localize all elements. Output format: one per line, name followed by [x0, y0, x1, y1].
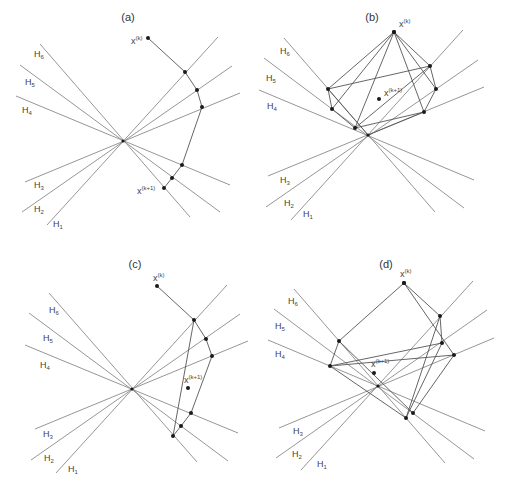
hyperplane-label-H6: H6	[49, 305, 60, 316]
projection-point	[195, 88, 199, 92]
projection-edge	[404, 283, 440, 316]
hyperplane-label-H4: H4	[40, 360, 51, 371]
projection-edge	[368, 112, 424, 135]
panel-d-title: (d)	[379, 258, 392, 270]
hyperplane-label-H4: H4	[267, 101, 278, 112]
projection-edge	[328, 89, 368, 135]
intersection-point	[366, 133, 369, 136]
projection-point	[438, 314, 442, 318]
projection-edge	[394, 32, 436, 89]
panel-b: (b)H1H2H3H4H5H6x(k)x(k+1)	[259, 11, 484, 220]
projection-edge	[330, 355, 454, 366]
hyperplane-label-H4: H4	[22, 105, 33, 116]
projection-point	[337, 339, 341, 343]
hyperplane-label-H5: H5	[266, 73, 277, 84]
hyperplane-label-H4: H4	[275, 349, 286, 360]
hyperplane-label-H1: H1	[68, 464, 79, 475]
projection-edge	[355, 32, 394, 128]
projection-edge	[191, 356, 212, 413]
xk1-label: x(k+1)	[184, 374, 202, 385]
projection-point	[186, 386, 190, 390]
hyperplane-label-H1: H1	[303, 209, 314, 220]
hyperplane-H1	[291, 30, 463, 220]
projection-point	[170, 176, 174, 180]
projection-edge	[206, 339, 212, 356]
hyperplane-H5	[20, 65, 220, 212]
hyperplane-label-H2: H2	[284, 198, 295, 209]
projection-point	[210, 354, 214, 358]
projection-point	[192, 318, 196, 322]
projection-point	[189, 411, 193, 415]
projection-point	[179, 424, 183, 428]
projection-point	[326, 87, 330, 91]
xk1-label: x(k+1)	[137, 185, 155, 196]
xk-label: x(k)	[153, 272, 165, 283]
hyperplane-label-H2: H2	[34, 204, 45, 215]
projection-point	[440, 341, 444, 345]
hyperplane-H3	[279, 338, 494, 428]
hyperplane-label-H2: H2	[292, 449, 303, 460]
projection-edge	[194, 320, 206, 339]
xk-point	[155, 284, 159, 288]
projection-point	[422, 110, 426, 114]
projection-point	[171, 434, 175, 438]
hyperplane-H3	[35, 341, 248, 429]
hyperplane-H2	[22, 66, 232, 212]
projection-point	[328, 364, 332, 368]
projection-point	[404, 416, 408, 420]
xk-label: x(k)	[399, 18, 411, 29]
projection-point	[180, 163, 184, 167]
projection-edge	[157, 286, 194, 320]
hyperplane-label-H5: H5	[43, 333, 54, 344]
projection-edge	[330, 341, 339, 366]
hyperplane-label-H3: H3	[43, 429, 54, 440]
panel-c-title: (c)	[129, 258, 142, 270]
hyperplane-H1	[301, 281, 473, 470]
projection-edge	[172, 165, 182, 178]
panel-d: (d)H1H2H3H4H5H6x(k)x(k+1)	[268, 258, 494, 470]
projection-point	[183, 70, 187, 74]
hyperplane-H1	[47, 37, 218, 225]
intersection-point	[130, 387, 133, 390]
panel-c: (c)H1H2H3H4H5H6x(k)x(k+1)	[25, 258, 248, 475]
projection-edge	[394, 32, 424, 112]
projection-edge	[197, 90, 202, 107]
hyperplane-H5	[274, 309, 474, 459]
projection-point	[204, 337, 208, 341]
hyperplane-label-H1: H1	[317, 459, 328, 470]
hyperplane-H5	[29, 313, 228, 461]
projection-edge	[440, 316, 442, 343]
panel-a-title: (a)	[121, 11, 134, 23]
hyperplane-H2	[276, 310, 487, 458]
projection-point	[353, 126, 357, 130]
hyperplane-label-H3: H3	[34, 180, 45, 191]
hyperplane-H6	[40, 44, 190, 217]
hyperplane-label-H2: H2	[44, 453, 55, 464]
hyperplane-label-H3: H3	[280, 175, 291, 186]
projection-point	[200, 105, 204, 109]
panel-b-title: (b)	[365, 11, 378, 23]
projection-edge	[394, 32, 430, 66]
projection-point	[377, 97, 381, 101]
hyperplane-H3	[25, 93, 240, 182]
projection-edge	[339, 283, 404, 341]
projection-edge	[185, 72, 197, 90]
panel-a: (a)H1H2H3H4H5H6x(k)x(k+1)	[16, 11, 240, 230]
projection-edge	[424, 89, 436, 112]
hyperplane-label-H6: H6	[34, 49, 45, 60]
figure-canvas: (a)H1H2H3H4H5H6x(k)x(k+1)(b)H1H2H3H4H5H6…	[0, 0, 506, 482]
hyperplane-label-H1: H1	[53, 219, 64, 230]
hyperplane-label-H5: H5	[275, 321, 286, 332]
projection-point	[392, 30, 396, 34]
xk-label: x(k)	[400, 268, 412, 279]
projection-point	[372, 371, 376, 375]
projection-edge	[328, 32, 394, 89]
projection-point	[428, 64, 432, 68]
projection-point	[434, 87, 438, 91]
projection-edge	[181, 413, 191, 426]
xk-point	[146, 36, 150, 40]
hyperplane-label-H3: H3	[293, 426, 304, 437]
projection-point	[402, 281, 406, 285]
projection-point	[411, 411, 415, 415]
intersection-point	[376, 384, 379, 387]
